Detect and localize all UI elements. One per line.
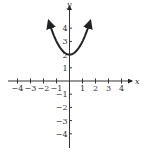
x-tick-label: 3: [106, 84, 111, 93]
y-tick-label: 3: [62, 37, 67, 46]
x-axis-label: x: [135, 77, 140, 86]
x-tick-label: 2: [93, 84, 98, 93]
y-tick-label: −4: [56, 130, 68, 139]
y-axis-label: y: [66, 0, 72, 9]
y-tick-label: −1: [56, 90, 68, 99]
x-tick-label: 4: [119, 84, 124, 93]
y-tick-label: −3: [56, 117, 68, 126]
x-tick-label: −4: [12, 84, 24, 93]
y-tick-label: 1: [62, 64, 67, 73]
function-graph: x y −4−3−2−11234−4−3−2−11234: [0, 0, 148, 159]
y-tick-label: −2: [56, 103, 68, 112]
x-tick-label: −3: [25, 84, 37, 93]
x-tick-label: −2: [38, 84, 50, 93]
x-tick-label: 1: [80, 84, 85, 93]
y-tick-label: 4: [62, 24, 67, 33]
